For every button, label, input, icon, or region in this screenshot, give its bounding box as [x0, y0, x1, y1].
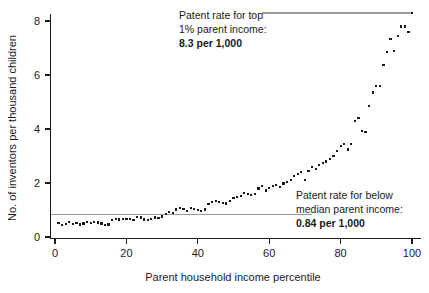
data-point: [86, 221, 88, 223]
data-point: [186, 210, 188, 212]
data-point: [204, 208, 206, 210]
data-point: [318, 164, 320, 166]
data-point: [247, 193, 249, 195]
data-point: [368, 105, 370, 107]
data-point: [354, 120, 356, 122]
data-point: [215, 200, 217, 202]
chart-canvas: No. of inventors per thousand children P…: [0, 0, 429, 293]
data-point: [297, 173, 299, 175]
data-point: [400, 25, 402, 27]
data-point: [386, 51, 388, 53]
data-point: [172, 212, 174, 214]
data-point: [293, 175, 295, 177]
data-point: [200, 210, 202, 212]
data-point: [307, 170, 309, 172]
data-point: [100, 222, 102, 224]
data-point: [265, 189, 267, 191]
data-point: [254, 193, 256, 195]
data-point: [279, 186, 281, 188]
data-point: [93, 221, 95, 223]
data-point: [82, 222, 84, 224]
data-point: [275, 184, 277, 186]
y-tick-label: 4: [34, 123, 40, 135]
data-point: [340, 145, 342, 147]
x-tick-group: 020406080100: [52, 239, 421, 260]
top-annotation: Patent rate for top 1% parent income: 8.…: [179, 9, 267, 49]
data-point: [79, 223, 81, 225]
y-tick-label: 2: [34, 177, 40, 189]
top-annotation-value: 8.3 per 1,000: [179, 37, 242, 49]
data-point: [232, 197, 234, 199]
data-point: [75, 222, 77, 224]
data-point: [329, 158, 331, 160]
data-point: [182, 208, 184, 210]
data-point: [118, 218, 120, 220]
data-point: [157, 217, 159, 219]
y-tick-label: 0: [34, 231, 40, 243]
data-point: [393, 50, 395, 52]
data-point: [65, 223, 67, 225]
data-point: [190, 207, 192, 209]
data-point: [397, 35, 399, 37]
data-point: [300, 171, 302, 173]
data-point: [143, 218, 145, 220]
data-point: [236, 196, 238, 198]
data-point: [332, 155, 334, 157]
data-point: [243, 192, 245, 194]
data-point: [165, 213, 167, 215]
data-point: [150, 218, 152, 220]
data-point: [132, 219, 134, 221]
bottom-annotation: Patent rate for below median parent inco…: [296, 189, 403, 229]
data-point: [343, 143, 345, 145]
data-point: [290, 179, 292, 181]
data-point: [197, 209, 199, 211]
data-point: [115, 218, 117, 220]
data-point: [240, 195, 242, 197]
patent-rate-scatter-chart: No. of inventors per thousand children P…: [0, 0, 429, 293]
data-point: [315, 168, 317, 170]
x-tick-label: 60: [263, 247, 275, 259]
y-axis-title: No. of inventors per thousand children: [6, 35, 18, 221]
data-point: [140, 216, 142, 218]
data-point: [222, 202, 224, 204]
data-point: [147, 219, 149, 221]
data-point: [229, 200, 231, 202]
data-point: [61, 224, 63, 226]
y-tick-label: 8: [34, 15, 40, 27]
data-point: [361, 130, 363, 132]
data-point: [211, 201, 213, 203]
x-tick-label: 0: [52, 247, 58, 259]
data-point: [261, 185, 263, 187]
data-point: [364, 131, 366, 133]
data-point: [97, 221, 99, 223]
data-point: [404, 25, 406, 27]
data-point: [225, 202, 227, 204]
data-point: [282, 182, 284, 184]
bottom-annotation-line1: Patent rate for below: [296, 189, 393, 201]
data-point: [347, 148, 349, 150]
data-point: [179, 207, 181, 209]
data-point: [107, 223, 109, 225]
x-axis-title: Parent household income percentile: [145, 271, 321, 283]
data-point: [168, 211, 170, 213]
data-point: [161, 215, 163, 217]
data-point: [375, 85, 377, 87]
data-point: [136, 216, 138, 218]
data-point: [286, 181, 288, 183]
data-point: [250, 194, 252, 196]
data-point: [90, 222, 92, 224]
data-point: [325, 160, 327, 162]
data-point: [336, 150, 338, 152]
data-point: [68, 221, 70, 223]
data-point: [389, 38, 391, 40]
bottom-annotation-value: 0.84 per 1,000: [296, 217, 365, 229]
x-tick-label: 80: [334, 247, 346, 259]
data-point: [350, 143, 352, 145]
data-point: [272, 185, 274, 187]
data-point: [407, 31, 409, 33]
x-tick-label: 40: [192, 247, 204, 259]
data-point: [154, 216, 156, 218]
data-point: [57, 222, 59, 224]
data-point: [72, 223, 74, 225]
data-point: [382, 64, 384, 66]
